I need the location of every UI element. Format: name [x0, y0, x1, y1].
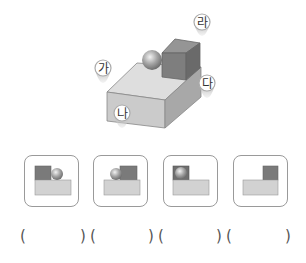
answer-blank-1[interactable] [30, 227, 78, 249]
sphere-shape [175, 167, 187, 179]
view-option-3[interactable] [163, 155, 218, 207]
view-option-2[interactable] [93, 155, 148, 207]
answer-row: ( ) ( ) ( ) ( ) [0, 227, 306, 249]
cube-shape [35, 166, 51, 180]
answer-blank-4[interactable] [236, 227, 284, 249]
base-shape [104, 180, 140, 195]
view-option-1[interactable] [24, 155, 79, 207]
sphere-shape [110, 168, 122, 180]
sphere-shape [51, 168, 63, 180]
answer-blank-3[interactable] [168, 227, 216, 249]
view-options [0, 0, 306, 263]
cube-shape [120, 166, 137, 180]
close-paren-4: ) [285, 227, 291, 245]
base-shape [173, 180, 209, 195]
open-paren-1: ( [20, 227, 26, 245]
cube-shape [263, 166, 278, 180]
open-paren-4: ( [226, 227, 232, 245]
base-shape [243, 180, 278, 195]
close-paren-1: ) [80, 227, 86, 245]
base-shape [35, 180, 71, 195]
answer-blank-2[interactable] [100, 227, 148, 249]
view-option-4[interactable] [233, 155, 288, 207]
open-paren-2: ( [90, 227, 96, 245]
open-paren-3: ( [158, 227, 164, 245]
close-paren-3: ) [216, 227, 222, 245]
close-paren-2: ) [148, 227, 154, 245]
